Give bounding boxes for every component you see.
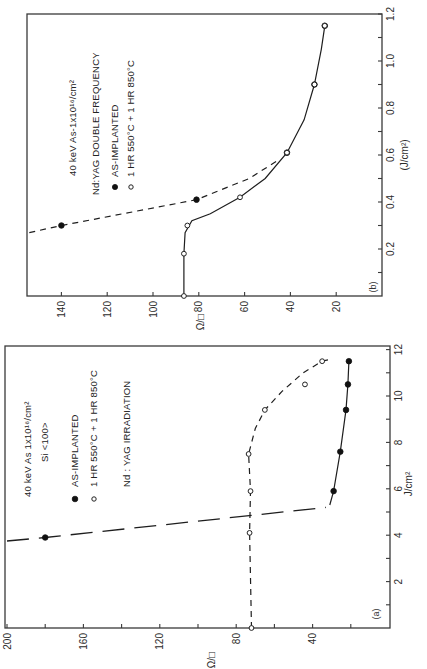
panel-a-ticks: 200160120804024681012 [2,344,405,650]
b-point-as-implanted [194,197,200,203]
a-point-as-implanted [337,449,343,455]
panel-a-tag: (a) [371,608,381,619]
b-omega-tick-label: 40 [285,301,296,313]
b-point-annealed [238,195,243,200]
a-point-annealed [248,489,253,494]
a-point-annealed [249,626,254,631]
figure: 140120100806040200.20.40.60.81.01.2 Ω/□ … [0,0,427,669]
panel-b: 140120100806040200.20.40.60.81.01.2 Ω/□ … [27,7,410,331]
b-omega-tick-label: 120 [102,301,113,318]
panel-b-legend-line-4: 1 HR 550°C + 1 HR 850°C [125,60,136,177]
b-omega-tick-label: 100 [148,301,159,318]
panel-b-legend-open-marker [129,185,133,189]
b-point-annealed [285,150,290,155]
b-j-tick-label: 0.4 [385,195,396,209]
panel-b-y-axis-label: Ω/□ [195,314,206,330]
a-j-tick-label: 2 [393,578,404,584]
panel-a-legend-line-4: 1 HR 550°C + 1 HR 850°C [88,370,99,487]
a-point-as-implanted [42,535,48,541]
a-point-as-implanted [331,488,337,494]
b-j-tick-label: 1.2 [385,7,396,21]
a-point-annealed [246,452,251,457]
panel-b-frame [27,14,382,296]
a-j-tick-label: 12 [393,344,404,356]
panel-a-legend-filled-marker [72,496,78,502]
a-curve-annealed [249,359,332,628]
panel-b-legend-filled-marker [112,184,117,189]
a-omega-tick-label: 120 [154,633,165,650]
panel-b-legend-line-2: Nd:YAG DOUBLE FREQUENCY [90,52,101,195]
panel-b-legend-line-1: 40 keV As-1x10¹⁶/cm² [67,80,78,176]
panel-a-curves [7,359,349,628]
b-omega-tick-label: 140 [56,301,67,318]
b-point-annealed [182,294,187,299]
panel-b-legend: 40 keV As-1x10¹⁶/cm² Nd:YAG DOUBLE FREQU… [67,52,136,195]
panel-b-legend-line-3: AS-IMPLANTED [109,104,120,177]
b-omega-tick-label: 60 [239,301,250,313]
b-point-annealed [182,251,187,256]
panel-a-x-axis-label: J/cm² [403,471,414,496]
a-point-annealed [262,408,267,413]
panel-a-frame [5,346,390,628]
panel-a-legend-line-3: AS-IMPLANTED [69,414,80,487]
a-j-tick-label: 4 [393,532,404,538]
panel-b-tag: (b) [368,281,378,292]
b-point-annealed [185,223,190,228]
a-point-as-implanted [345,382,351,388]
panel-b-ticks: 140120100806040200.20.40.60.81.01.2 [56,7,396,318]
a-point-annealed [247,530,252,535]
a-point-annealed [303,382,308,387]
b-j-tick-label: 0.2 [385,242,396,256]
a-omega-tick-label: 200 [2,633,13,650]
a-point-as-implanted [346,358,352,364]
b-omega-tick-label: 80 [193,301,204,313]
b-j-tick-label: 1.0 [385,54,396,68]
panel-a-legend: 40 keV As 1x10¹⁶/cm² Si <100> AS-IMPLANT… [22,370,132,502]
a-curve-as-implanted-transition [7,507,326,541]
b-point-annealed [312,82,317,87]
a-omega-tick-label: 160 [78,633,89,650]
panel-b-x-axis-label: (J/cm²) [399,139,410,170]
panel-a-legend-open-marker [92,497,96,501]
a-point-annealed [320,359,325,364]
panel-a: 200160120804024681012 Ω/□ J/cm² (a) 40 k… [2,344,415,669]
b-j-tick-label: 0.8 [385,101,396,115]
b-curve-annealed [184,26,325,296]
panel-a-legend-line-5: Nd : YAG IRRADIATION [121,381,132,487]
a-omega-tick-label: 40 [307,633,318,645]
b-omega-tick-label: 20 [331,301,342,313]
a-point-as-implanted [343,407,349,413]
panel-a-legend-line-2: Si <100> [39,422,50,462]
a-j-tick-label: 8 [393,439,404,445]
a-omega-tick-label: 80 [231,633,242,645]
a-j-tick-label: 10 [393,390,404,402]
b-point-as-implanted [59,223,65,229]
b-point-annealed [322,23,327,28]
b-j-tick-label: 0.6 [385,148,396,162]
panel-a-y-axis-label: Ω/□ [206,652,217,668]
panel-a-legend-line-1: 40 keV As 1x10¹⁶/cm² [22,401,33,497]
